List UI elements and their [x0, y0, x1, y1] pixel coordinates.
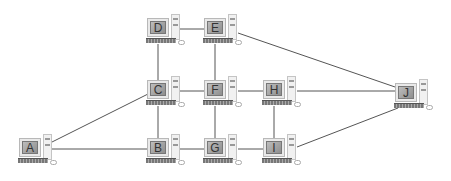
mouse-icon [178, 102, 185, 107]
monitor-icon: I [263, 138, 285, 157]
node-label: E [211, 22, 219, 34]
computer-node-a[interactable]: A [19, 134, 59, 168]
keyboard-icon [18, 158, 48, 163]
keyboard-icon [146, 100, 176, 105]
monitor-icon: B [147, 138, 169, 157]
computer-node-d[interactable]: D [147, 14, 187, 48]
node-label: A [26, 142, 34, 154]
monitor-icon: A [19, 138, 41, 157]
computer-node-i[interactable]: I [263, 134, 303, 168]
monitor-icon: J [395, 83, 417, 102]
mouse-icon [235, 160, 242, 165]
tower-icon [43, 134, 52, 160]
edge-I-J [297, 108, 398, 147]
node-label: J [403, 87, 409, 99]
tower-icon [228, 134, 237, 160]
computer-node-f[interactable]: F [204, 76, 244, 110]
node-label: C [154, 84, 163, 96]
node-label: F [211, 84, 218, 96]
mouse-icon [235, 102, 242, 107]
mouse-icon [178, 160, 185, 165]
tower-icon [228, 14, 237, 40]
keyboard-icon [262, 158, 292, 163]
computer-node-j[interactable]: J [395, 79, 435, 113]
monitor-icon: E [204, 18, 226, 37]
monitor-icon: F [204, 80, 226, 99]
mouse-icon [178, 40, 185, 45]
keyboard-icon [146, 38, 176, 43]
keyboard-icon [262, 100, 292, 105]
mouse-icon [294, 102, 301, 107]
mouse-icon [426, 105, 433, 110]
keyboard-icon [203, 100, 233, 105]
edge-E-J [238, 33, 398, 88]
computer-node-c[interactable]: C [147, 76, 187, 110]
computer-node-g[interactable]: G [204, 134, 244, 168]
edge-A-C [50, 92, 152, 143]
tower-icon [419, 79, 428, 105]
keyboard-icon [146, 158, 176, 163]
computer-node-b[interactable]: B [147, 134, 187, 168]
mouse-icon [294, 160, 301, 165]
monitor-icon: C [147, 80, 169, 99]
tower-icon [171, 134, 180, 160]
tower-icon [287, 134, 296, 160]
computer-node-e[interactable]: E [204, 14, 244, 48]
tower-icon [228, 76, 237, 102]
mouse-icon [235, 40, 242, 45]
monitor-icon: D [147, 18, 169, 37]
mouse-icon [50, 160, 57, 165]
keyboard-icon [203, 38, 233, 43]
keyboard-icon [394, 103, 424, 108]
tower-icon [287, 76, 296, 102]
node-label: I [272, 142, 275, 154]
node-label: B [154, 142, 162, 154]
tower-icon [171, 76, 180, 102]
computer-node-h[interactable]: H [263, 76, 303, 110]
node-label: H [270, 84, 279, 96]
tower-icon [171, 14, 180, 40]
monitor-icon: G [204, 138, 226, 157]
monitor-icon: H [263, 80, 285, 99]
node-label: G [210, 142, 219, 154]
node-label: D [154, 22, 163, 34]
keyboard-icon [203, 158, 233, 163]
